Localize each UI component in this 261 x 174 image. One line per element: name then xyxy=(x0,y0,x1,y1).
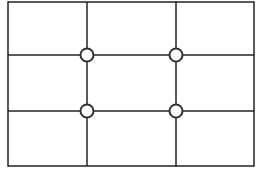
intersection-point-bottom-right xyxy=(170,105,183,118)
intersection-point-top-left xyxy=(81,49,94,62)
intersection-point-bottom-left xyxy=(81,105,94,118)
frame-border xyxy=(8,2,254,166)
intersection-point-top-right xyxy=(170,49,183,62)
rule-of-thirds-diagram xyxy=(0,0,261,174)
